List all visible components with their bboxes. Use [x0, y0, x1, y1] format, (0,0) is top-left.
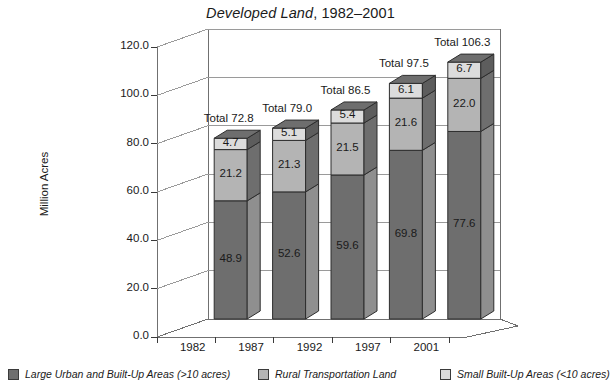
- bar-segment-value-label: 5.1: [273, 126, 306, 138]
- bar-segment-side-1992-1: [364, 115, 377, 175]
- bar-segment-side-1987-1: [306, 132, 319, 191]
- bar-segment-value-label: 4.7: [214, 136, 247, 148]
- chart-legend: Large Urban and Built-Up Areas (>10 acre…: [0, 364, 601, 386]
- bar-segment-side-1987-0: [306, 184, 319, 319]
- legend-item-2[interactable]: Small Built-Up Areas (<10 acres): [440, 368, 610, 380]
- legend-item-label: Large Urban and Built-Up Areas (>10 acre…: [25, 368, 230, 380]
- bar-segment-side-1982-1: [247, 142, 260, 201]
- bar-segment-side-1997-1: [422, 90, 435, 150]
- bar-segment-value-label: 22.0: [448, 97, 481, 109]
- bar-total-label: Total 106.3: [422, 36, 502, 48]
- legend-item-label: Rural Transportation Land: [275, 368, 396, 380]
- legend-item-1[interactable]: Rural Transportation Land: [258, 368, 396, 380]
- bar-segment-value-label: 69.8: [389, 227, 422, 239]
- bar-segment-value-label: 5.4: [331, 108, 364, 120]
- bar-segment-value-label: 21.2: [214, 167, 247, 179]
- bar-segment-value-label: 21.3: [273, 158, 306, 170]
- legend-swatch-icon: [8, 369, 19, 380]
- bar-total-label: Total 86.5: [306, 84, 386, 96]
- bar-total-label: Total 79.0: [247, 102, 327, 114]
- legend-swatch-icon: [440, 369, 451, 380]
- bar-segment-value-label: 6.1: [389, 83, 422, 95]
- bar-segment-value-label: 77.6: [448, 217, 481, 229]
- bar-segment-value-label: 48.9: [214, 252, 247, 264]
- bar-segment-side-1997-0: [422, 142, 435, 319]
- bar-segment-value-label: 52.6: [273, 247, 306, 259]
- bar-segment-side-2001-0: [481, 123, 494, 319]
- bar-segment-value-label: 21.5: [331, 141, 364, 153]
- bar-segment-side-2001-1: [481, 70, 494, 131]
- bar-segment-side-1992-0: [364, 167, 377, 319]
- legend-swatch-icon: [258, 369, 269, 380]
- bar-segment-value-label: 6.7: [448, 62, 481, 74]
- legend-item-0[interactable]: Large Urban and Built-Up Areas (>10 acre…: [8, 368, 230, 380]
- bar-segment-value-label: 21.6: [389, 116, 422, 128]
- bar-segment-value-label: 59.6: [331, 239, 364, 251]
- bar-total-label: Total 97.5: [364, 57, 444, 69]
- bar-segment-side-1982-0: [247, 193, 260, 319]
- legend-item-label: Small Built-Up Areas (<10 acres): [457, 368, 610, 380]
